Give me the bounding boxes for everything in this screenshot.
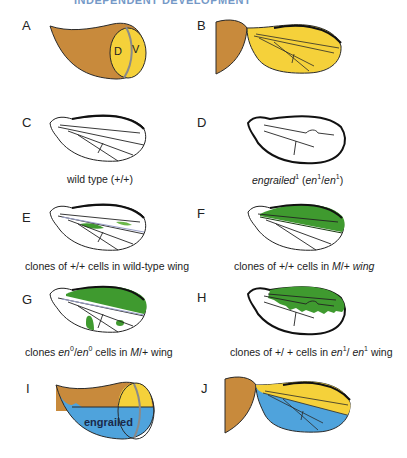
caption-f: clones of +/+ cells in M/+ wing — [234, 260, 374, 272]
wing-diagram-en0-clones — [48, 284, 150, 334]
caption-c: wild type (+/+) — [55, 173, 145, 185]
caption-f-text: wing — [353, 260, 375, 272]
caption-f-text: clones of +/+ cells in — [234, 260, 332, 272]
dorsal-label: D — [114, 45, 122, 57]
wing-diagram-wild-type — [48, 113, 150, 163]
caption-h-text: clones of +/ + cells in — [230, 346, 331, 358]
panel-label-i: I — [26, 381, 30, 396]
caption-d-text: ) — [340, 174, 344, 186]
caption-h-text: en — [352, 346, 364, 358]
caption-f-text: /+ — [341, 260, 353, 272]
wing-diagram-engrailed — [246, 113, 348, 165]
wing-diagram-clones-engrailed — [246, 284, 348, 336]
panel-label-c: C — [22, 115, 31, 130]
caption-d-text: en — [324, 174, 336, 186]
panel-label-b: B — [197, 18, 206, 33]
panel-label-j: J — [201, 381, 208, 396]
caption-h-text: en — [331, 346, 343, 358]
panel-label-h: H — [197, 290, 206, 305]
caption-g-text: /+ wing — [139, 346, 173, 358]
caption-g-text: cells in — [92, 346, 130, 358]
caption-g-text: M — [130, 346, 139, 358]
wing-disc-engrailed-expression — [54, 381, 156, 441]
adult-wing-diagram-b — [214, 18, 349, 76]
panel-label-d: D — [197, 115, 206, 130]
caption-d: engrailed1 (en1/en1) — [252, 173, 343, 186]
caption-g-text: en — [58, 346, 70, 358]
panel-label-g: G — [22, 292, 32, 307]
caption-g: clones en0/en0 cells in M/+ wing — [25, 345, 173, 358]
caption-g-text: clones — [25, 346, 58, 358]
caption-h-text: wing — [368, 346, 393, 358]
wing-diagram-clones-minute — [246, 202, 348, 252]
caption-h: clones of +/ + cells in en1/ en1 wing — [230, 345, 393, 358]
panel-label-f: F — [197, 206, 205, 221]
panel-label-e: E — [22, 210, 31, 225]
caption-g-text: en — [77, 346, 89, 358]
caption-d-text: engrailed — [252, 174, 295, 186]
cropped-header-title: INDEPENDENT DEVELOPMENT — [74, 0, 251, 6]
ventral-label: V — [132, 43, 139, 55]
caption-d-text: en — [306, 174, 318, 186]
panel-label-a: A — [22, 18, 31, 33]
caption-e: clones of +/+ cells in wild-type wing — [25, 260, 189, 272]
adult-wing-engrailed-expression — [223, 375, 358, 435]
wing-diagram-clones-wild-type — [48, 202, 150, 252]
engrailed-region-label: engrailed — [84, 416, 133, 428]
caption-f-text: M — [332, 260, 341, 272]
